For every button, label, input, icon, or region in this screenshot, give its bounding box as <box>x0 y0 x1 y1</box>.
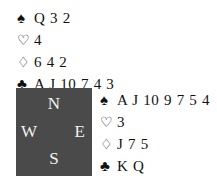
heart-icon: ♡ <box>100 112 117 134</box>
hand-east-diamonds-cards: J 7 5 <box>117 133 149 155</box>
compass-label-south: S <box>49 150 58 167</box>
heart-icon: ♡ <box>17 30 34 52</box>
hand-east: ♠ A J 10 9 7 5 4 ♡ 3 ♢ J 7 5 ♣ K Q <box>100 89 210 177</box>
hand-north-diamonds-cards: 6 4 2 <box>34 51 68 73</box>
hand-north-hearts-cards: 4 <box>34 29 42 51</box>
bridge-deal-diagram: ♠ Q 3 2 ♡ 4 ♢ 6 4 2 ♣ A J 10 7 4 3 N W E… <box>0 0 217 192</box>
compass-label-east: E <box>75 123 85 140</box>
hand-east-clubs-row: ♣ K Q <box>100 155 210 177</box>
club-icon: ♣ <box>100 155 117 177</box>
compass-label-north: N <box>48 95 60 112</box>
hand-north: ♠ Q 3 2 ♡ 4 ♢ 6 4 2 ♣ A J 10 7 4 3 <box>17 7 115 95</box>
spade-icon: ♠ <box>17 7 34 29</box>
diamond-icon: ♢ <box>100 134 117 156</box>
spade-icon: ♠ <box>100 89 117 111</box>
compass-box: N W E S <box>16 88 92 176</box>
hand-north-spades-row: ♠ Q 3 2 <box>17 7 115 29</box>
diamond-icon: ♢ <box>17 52 34 74</box>
hand-east-spades-cards: A J 10 9 7 5 4 <box>117 89 210 111</box>
compass-label-west: W <box>21 123 37 140</box>
hand-east-hearts-row: ♡ 3 <box>100 111 210 133</box>
hand-east-diamonds-row: ♢ J 7 5 <box>100 133 210 155</box>
hand-north-hearts-row: ♡ 4 <box>17 29 115 51</box>
hand-east-spades-row: ♠ A J 10 9 7 5 4 <box>100 89 210 111</box>
hand-east-hearts-cards: 3 <box>117 111 125 133</box>
hand-north-spades-cards: Q 3 2 <box>34 7 71 29</box>
hand-east-clubs-cards: K Q <box>117 155 145 177</box>
hand-north-diamonds-row: ♢ 6 4 2 <box>17 51 115 73</box>
